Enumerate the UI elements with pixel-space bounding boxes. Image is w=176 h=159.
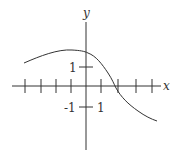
y-axis-label: y <box>82 6 90 20</box>
x-axis-label: x <box>163 79 170 93</box>
function-curve <box>24 50 157 121</box>
y-tick-label-1: 1 <box>69 61 77 75</box>
y-tick-label-neg1: -1 <box>64 101 76 115</box>
x-tick-label-1: 1 <box>97 101 105 115</box>
graph: y x 1 -1 1 <box>0 0 176 159</box>
